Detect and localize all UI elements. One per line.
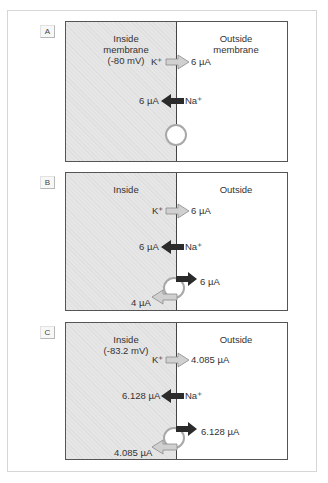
panel-b: Inside Outside K⁺ 6 µA 6 µA Na⁺ 6 µA 4 µ… [65, 172, 288, 311]
panel-c: Inside (-83.2 mV) Outside K⁺ 4.085 µA 6.… [65, 322, 288, 460]
panel-label-b: B [40, 176, 55, 189]
k-outward-arrow [166, 204, 189, 218]
panel-a: Inside membrane (-80 mV) Outside membran… [65, 21, 288, 162]
panel-b-arrows [66, 173, 289, 312]
k-outward-arrow [166, 353, 189, 367]
k-outward-arrow [166, 55, 189, 69]
panel-c-arrows [66, 323, 289, 461]
na-inward-arrow [161, 389, 184, 403]
na-inward-arrow [161, 240, 184, 254]
panel-label-a: A [40, 25, 55, 38]
panel-a-arrows [66, 22, 289, 163]
panel-label-c: C [40, 326, 55, 339]
pump-circle [166, 125, 186, 145]
na-inward-arrow [161, 94, 184, 108]
